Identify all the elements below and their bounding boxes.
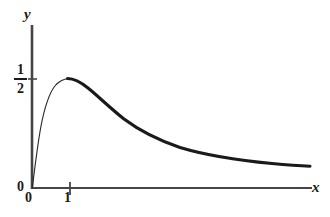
fraction-numerator: 1 <box>13 62 28 77</box>
plot-canvas <box>0 0 330 217</box>
y-axis-label: y <box>24 7 31 22</box>
fraction-denominator: 2 <box>13 81 28 96</box>
curve-rising-branch <box>32 78 70 188</box>
curve-falling-branch <box>68 79 311 167</box>
x-axis-label: x <box>312 180 320 195</box>
y-tick-label-one-half: 1 2 <box>13 62 28 96</box>
function-plot-figure: y x 0 0 1 1 2 <box>0 0 330 217</box>
origin-label-y-axis: 0 <box>17 180 24 194</box>
origin-label-x-axis: 0 <box>25 191 32 205</box>
x-tick-label-1: 1 <box>64 191 71 205</box>
fraction-bar <box>14 78 27 80</box>
